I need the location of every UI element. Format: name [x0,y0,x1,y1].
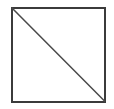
figure-canvas [0,0,114,109]
diagonal-line [12,8,105,101]
square-with-diagonal-figure [0,0,114,109]
